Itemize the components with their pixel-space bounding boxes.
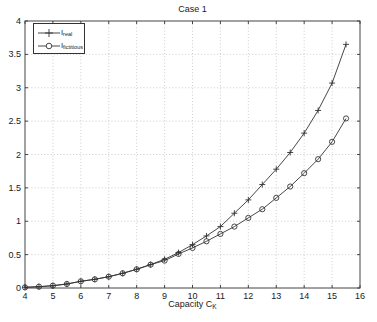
plus-marker — [315, 107, 321, 113]
y-tick-label: 1.5 — [8, 183, 21, 193]
y-tick-label: 4 — [16, 16, 21, 26]
plus-marker — [203, 233, 209, 239]
y-tick-label: 2.5 — [8, 116, 21, 126]
circle-marker — [343, 116, 348, 121]
y-tick-label: 0 — [16, 283, 21, 293]
legend-label-fictitious: Ifictitious — [61, 42, 83, 50]
plus-line-icon — [37, 27, 61, 39]
legend-item-real: Ireal — [37, 26, 82, 39]
circle-line-icon — [37, 40, 61, 52]
x-axis-label: Capacity CK — [25, 299, 360, 309]
series-line-circle — [25, 119, 346, 288]
y-tick-label: 0.5 — [8, 250, 21, 260]
legend: Ireal Ifictitious — [33, 23, 85, 54]
y-tick-label: 3.5 — [8, 49, 21, 59]
y-tick-label: 1 — [16, 216, 21, 226]
plus-marker — [343, 41, 349, 47]
plus-marker — [329, 80, 335, 86]
legend-item-fictitious: Ifictitious — [37, 39, 82, 52]
plus-marker — [301, 130, 307, 136]
matlab-figure: Case 1 4567891011121314151600.511.522.53… — [0, 0, 377, 322]
y-tick-label: 3 — [16, 83, 21, 93]
y-tick-label: 2 — [16, 150, 21, 160]
legend-label-real: Ireal — [61, 29, 72, 37]
